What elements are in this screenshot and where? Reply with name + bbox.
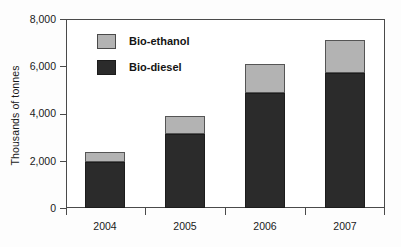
x-tick-mark-3 xyxy=(305,208,306,215)
bar-segment-diesel-2006[interactable] xyxy=(245,93,285,208)
y-tick-label-0: 0 xyxy=(0,203,56,213)
y-tick-label-8000: 8,000 xyxy=(0,14,56,24)
bar-chart: Thousands of tonnes 8,000 6,000 4,000 2,… xyxy=(0,0,401,247)
y-tick-label-4000: 4,000 xyxy=(0,108,56,118)
bar-segment-ethanol-2004[interactable] xyxy=(85,152,125,162)
x-tick-mark-1 xyxy=(145,208,146,215)
x-tick-mark-2 xyxy=(225,208,226,215)
bar-stack-2007[interactable] xyxy=(325,19,365,208)
x-tick-label-2004: 2004 xyxy=(65,220,145,232)
bar-stack-2006[interactable] xyxy=(245,19,285,208)
legend-swatch-diesel-icon xyxy=(97,60,116,75)
x-tick-label-2005: 2005 xyxy=(145,220,225,232)
bar-segment-diesel-2007[interactable] xyxy=(325,73,365,208)
legend-label-bio-ethanol: Bio-ethanol xyxy=(129,35,190,48)
bar-segment-ethanol-2006[interactable] xyxy=(245,64,285,94)
x-tick-mark-4 xyxy=(384,208,385,215)
bar-segment-diesel-2005[interactable] xyxy=(165,134,205,208)
y-tick-label-2000: 2,000 xyxy=(0,156,56,166)
legend-label-bio-diesel: Bio-diesel xyxy=(129,61,182,74)
x-tick-mark-0 xyxy=(66,208,67,215)
y-tick-label-6000: 6,000 xyxy=(0,61,56,71)
bar-segment-ethanol-2007[interactable] xyxy=(325,40,365,73)
x-tick-label-2007: 2007 xyxy=(305,220,385,232)
bar-segment-diesel-2004[interactable] xyxy=(85,162,125,208)
legend-swatch-ethanol-icon xyxy=(97,34,116,49)
bar-segment-ethanol-2005[interactable] xyxy=(165,116,205,134)
x-tick-label-2006: 2006 xyxy=(225,220,305,232)
